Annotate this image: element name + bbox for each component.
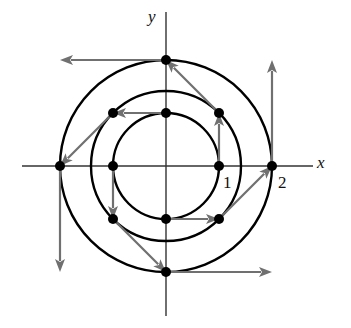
vector-arrow	[174, 68, 219, 113]
y-axis-label: y	[148, 8, 156, 25]
sample-point	[214, 214, 224, 224]
vector-arrow	[68, 113, 113, 158]
sample-point	[267, 161, 277, 171]
sample-point	[108, 214, 118, 224]
vector-field-diagram: y x 1 2	[0, 0, 351, 328]
tick-label-2: 2	[278, 174, 287, 191]
sample-point	[161, 55, 171, 65]
sample-point	[55, 161, 65, 171]
sample-point	[108, 108, 118, 118]
tick-label-1: 1	[223, 174, 232, 191]
sample-point	[214, 108, 224, 118]
sample-point	[161, 214, 171, 224]
sample-point	[108, 161, 118, 171]
sample-point	[214, 161, 224, 171]
sample-point	[161, 108, 171, 118]
sample-point	[161, 267, 171, 277]
diagram-canvas	[0, 0, 351, 328]
x-axis-label: x	[317, 154, 325, 171]
vector-arrow	[113, 219, 158, 264]
